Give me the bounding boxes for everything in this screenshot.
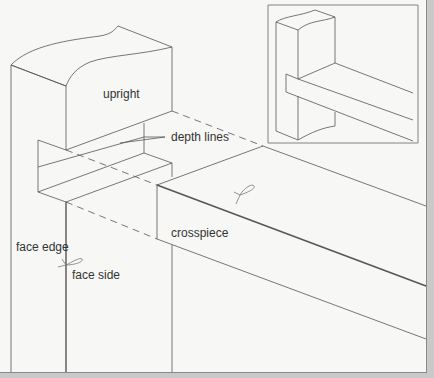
upright-label: upright (103, 88, 140, 100)
projection-lines (66, 111, 263, 239)
crosspiece (157, 146, 426, 372)
upright-top-face (11, 26, 172, 86)
crosspiece-label: crosspiece (171, 227, 228, 239)
inset-joint (276, 10, 413, 141)
face-edge-label: face edge (16, 241, 69, 253)
face-side-label: face side (72, 269, 120, 281)
upright-body (11, 47, 172, 372)
joint-drawing (0, 0, 427, 373)
depth-lines-label: depth lines (171, 131, 229, 143)
depth-lines-leader (120, 137, 165, 143)
inset-frame (268, 5, 418, 143)
diagram-canvas: upright depth lines crosspiece face edge… (0, 0, 427, 373)
